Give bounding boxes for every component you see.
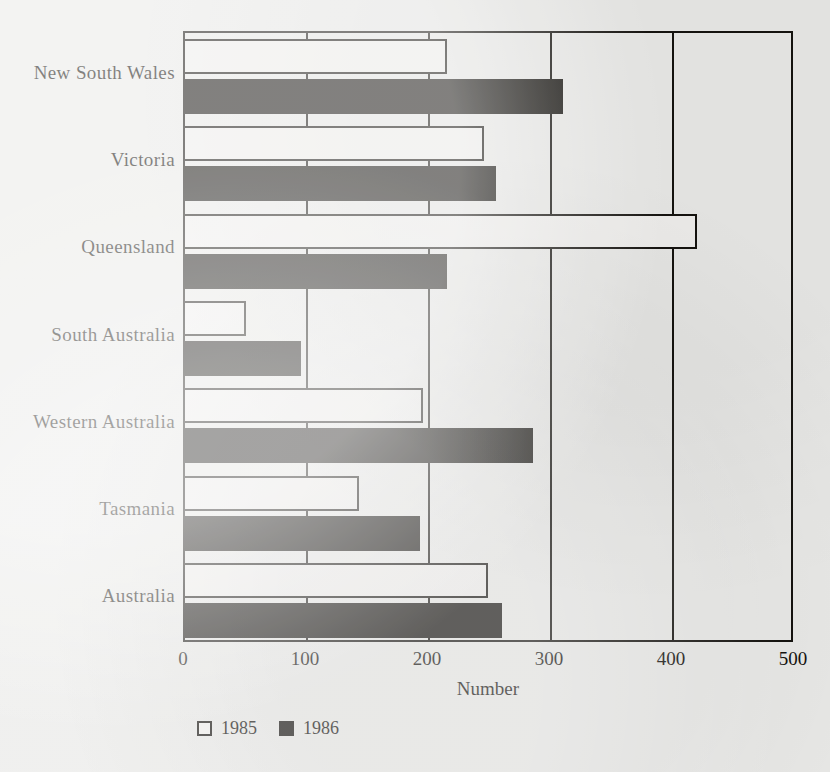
x-tick-label: 500	[779, 648, 808, 670]
x-tick-label: 100	[291, 648, 320, 670]
bar-1985	[183, 476, 359, 511]
plot-area	[183, 31, 793, 642]
bar-1985	[183, 214, 697, 249]
bar-1986	[183, 603, 502, 638]
x-tick-label: 400	[657, 648, 686, 670]
bar-1985	[183, 301, 246, 336]
category-label: Victoria	[0, 149, 175, 171]
bar-group	[185, 33, 791, 120]
bar-1986	[183, 254, 447, 289]
x-tick-label: 300	[535, 648, 564, 670]
category-label: South Australia	[0, 324, 175, 346]
horizontal-bar-chart: New South WalesVictoriaQueenslandSouth A…	[0, 0, 830, 772]
bar-1985	[183, 126, 484, 161]
category-label: Tasmania	[0, 498, 175, 520]
bar-group	[185, 382, 791, 469]
bar-1986	[183, 428, 533, 463]
legend-swatch-icon	[197, 721, 212, 736]
bar-group	[185, 208, 791, 295]
x-tick-label: 200	[413, 648, 442, 670]
bar-1986	[183, 516, 420, 551]
legend-entry: 1986	[279, 718, 339, 739]
bar-1985	[183, 563, 488, 598]
bar-group	[185, 120, 791, 207]
legend-swatch-icon	[279, 721, 294, 736]
bar-group	[185, 469, 791, 556]
category-label: Western Australia	[0, 411, 175, 433]
legend-entry: 1985	[197, 718, 257, 739]
bar-group	[185, 295, 791, 382]
category-label: Australia	[0, 585, 175, 607]
bar-1986	[183, 341, 301, 376]
bar-1985	[183, 39, 447, 74]
legend-label: 1986	[303, 718, 339, 739]
category-label: Queensland	[0, 236, 175, 258]
category-label: New South Wales	[0, 62, 175, 84]
bar-1986	[183, 79, 563, 114]
category-axis-labels: New South WalesVictoriaQueenslandSouth A…	[0, 31, 175, 642]
x-axis-tick-labels: 0100200300400500	[0, 648, 830, 678]
bar-1985	[183, 388, 423, 423]
x-axis-title: Number	[183, 678, 793, 700]
bar-group	[185, 557, 791, 644]
chart-legend: 19851986	[197, 718, 339, 739]
legend-label: 1985	[221, 718, 257, 739]
bar-1986	[183, 166, 496, 201]
x-tick-label: 0	[178, 648, 188, 670]
